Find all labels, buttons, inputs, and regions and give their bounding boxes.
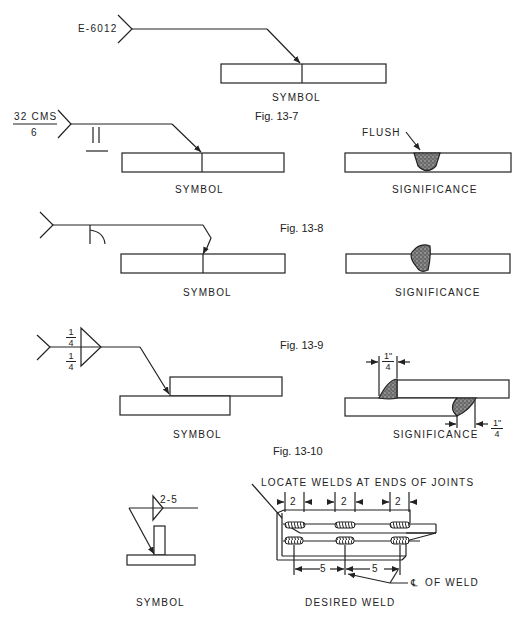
- figure-caption-13-10: Fig. 13-10: [273, 445, 323, 457]
- weld-length-dim: 2: [395, 496, 402, 507]
- fillet-weld-symbol: [37, 328, 169, 394]
- lap-joint-plates: [120, 377, 282, 415]
- desired-weld-caption: DESIRED WELD: [305, 597, 396, 608]
- butt-plates-13-8: [121, 254, 285, 273]
- fraction-denominator: 4: [66, 338, 76, 348]
- centerline-callout: OF WELD: [425, 577, 479, 588]
- convex-significance: [346, 245, 510, 273]
- cms-spec-label: 32 CMS: [14, 111, 57, 122]
- fillet-dim-top: 1" 4: [382, 351, 394, 372]
- fraction-numerator: 1: [66, 351, 76, 362]
- butt-joint-plates: [221, 64, 386, 83]
- fraction-numerator: 1": [382, 351, 394, 362]
- fillet-size-other-side: 1 4: [66, 351, 76, 372]
- fraction-numerator: 1: [66, 327, 76, 338]
- symbol-caption: SYMBOL: [175, 184, 224, 195]
- symbol-caption: SYMBOL: [173, 429, 222, 440]
- significance-caption: SIGNIFICANCE: [392, 184, 478, 195]
- cms-spec-denominator: 6: [31, 127, 38, 138]
- locate-welds-callout: LOCATE WELDS AT ENDS OF JOINTS: [261, 477, 474, 488]
- convex-weld-symbol: [40, 212, 211, 254]
- figure-caption-13-9: Fig. 13-9: [280, 339, 323, 351]
- flush-callout: FLUSH: [362, 127, 401, 138]
- square-butt-plates-13-7: [122, 153, 284, 172]
- weld-length-dim: 2: [290, 496, 297, 507]
- weld-spec-label: 2-5: [160, 494, 178, 505]
- figure-caption-13-8: Fig. 13-8: [280, 222, 323, 234]
- symbol-caption: SYMBOL: [136, 597, 185, 608]
- fillet-size-arrow-side: 1 4: [66, 327, 76, 348]
- centerline-symbol: ℄: [411, 577, 418, 588]
- weld-length-dim: 2: [341, 496, 348, 507]
- symbol-caption: SYMBOL: [272, 92, 321, 103]
- electrode-spec-label: E-6012: [78, 23, 117, 34]
- fraction-numerator: 1": [491, 418, 503, 429]
- lap-significance: [345, 356, 509, 428]
- intermittent-fillet-symbol: [127, 496, 198, 565]
- significance-caption: SIGNIFICANCE: [395, 287, 481, 298]
- flush-significance: [345, 132, 511, 172]
- fraction-denominator: 4: [382, 362, 394, 372]
- symbol-caption: SYMBOL: [183, 287, 232, 298]
- figure-caption-13-7: Fig. 13-7: [255, 110, 298, 122]
- significance-caption: SIGNIFICANCE: [393, 429, 479, 440]
- weld-pitch-dim: 5: [320, 563, 327, 574]
- fillet-dim-bottom: 1" 4: [491, 418, 503, 439]
- weld-pitch-dim: 5: [372, 563, 379, 574]
- fraction-denominator: 4: [66, 362, 76, 372]
- e6012-weld-symbol: [118, 15, 300, 63]
- weld-symbols-drawing: [0, 0, 522, 623]
- fraction-denominator: 4: [491, 429, 503, 439]
